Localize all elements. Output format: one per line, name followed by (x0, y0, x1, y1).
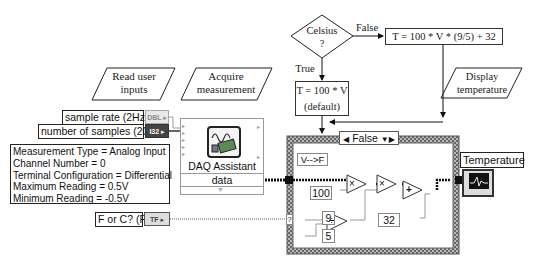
true-branch-label: True (292, 62, 318, 75)
number-of-samples-label: number of samples (20) (38, 124, 144, 139)
display-temperature-label: Displaytemperature (448, 70, 516, 96)
sample-rate-terminal[interactable]: DBL ▸ (145, 110, 169, 124)
multiply-icon: × (379, 178, 385, 189)
celsius-formula-box: T = 100 * V(default) (295, 81, 349, 116)
f-or-c-terminal[interactable]: TF ▸ (144, 212, 170, 226)
input-terminals: ▸▸▸▸▸ (182, 123, 185, 158)
number-of-samples-terminal[interactable]: I32 ▸ (145, 124, 169, 138)
daq-config-text: Measurement Type = Analog Input Channel … (10, 144, 170, 204)
multiply-icon: × (349, 178, 355, 189)
daq-data-output[interactable]: data (181, 173, 263, 187)
constant-32[interactable]: 32 (378, 213, 400, 227)
false-branch-label: False (352, 21, 382, 34)
waveform-chart-indicator[interactable] (462, 169, 494, 197)
labview-flowchart-diagram: Read userinputs Acquiremeasurement Celsi… (0, 0, 536, 264)
sample-rate-label: sample rate (2Hz) (62, 110, 144, 125)
fahrenheit-formula-box: T = 100 * V * (9/5) + 32 (385, 28, 503, 45)
case-label: V-->F (297, 153, 328, 166)
divide-icon: ÷ (329, 215, 335, 226)
expand-arrow-icon[interactable]: ▼ (217, 186, 224, 193)
dropdown-icon[interactable]: ▼ (381, 135, 389, 144)
daq-assistant-node[interactable]: DAQ Assistant data ▼ ▸▸▸▸▸ ▸ ▸ (180, 118, 264, 195)
output-terminal: ▸ (257, 123, 260, 130)
acquire-measurement-label: Acquiremeasurement (186, 70, 266, 96)
prev-case-icon[interactable]: ◀ (343, 135, 349, 144)
next-case-icon[interactable]: ▶ (389, 135, 395, 144)
chart-icon (469, 173, 489, 189)
f-or-c-label: F or C? (F) (95, 212, 143, 227)
constant-5[interactable]: 5 (322, 229, 335, 243)
read-inputs-label: Read userinputs (100, 70, 168, 96)
daq-icon (207, 126, 241, 158)
daq-assistant-title: DAQ Assistant (181, 160, 263, 172)
output-terminal: ▸ (257, 153, 260, 160)
case-selector[interactable]: ◀ False ▼▶ (339, 131, 399, 145)
constant-100[interactable]: 100 (310, 186, 332, 200)
case-selector-terminal[interactable]: ? (286, 214, 293, 225)
decision-label: Celsius? (296, 24, 348, 50)
add-icon: + (406, 184, 412, 195)
temperature-indicator-label: Temperature (460, 152, 524, 168)
